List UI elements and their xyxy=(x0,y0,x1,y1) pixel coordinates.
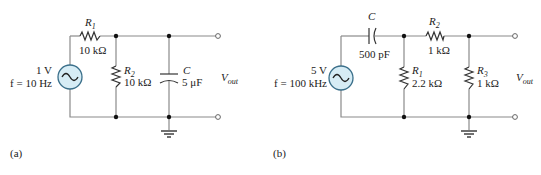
node-dot xyxy=(402,115,406,119)
source-frequency: f = 100 kHz xyxy=(274,77,327,89)
resistor-r2-icon xyxy=(426,32,444,40)
resistor-r3-icon xyxy=(465,67,473,89)
source-amplitude: 5 V xyxy=(311,64,327,76)
r1-value: 2.2 kΩ xyxy=(412,77,442,89)
c-label: C xyxy=(183,64,191,76)
ground-icon xyxy=(161,131,177,137)
output-terminal[interactable] xyxy=(216,34,221,39)
c-label: C xyxy=(368,10,376,22)
circuit-a: R1 10 kΩ R2 10 kΩ C 5 μF 1 V f = 10 Hz V… xyxy=(10,16,239,160)
vout-label: Vout xyxy=(221,71,239,86)
r3-value: 1 kΩ xyxy=(477,77,499,89)
node-dot xyxy=(167,34,171,38)
r1-value: 10 kΩ xyxy=(79,44,106,56)
circuit-diagram: R1 10 kΩ R2 10 kΩ C 5 μF 1 V f = 10 Hz V… xyxy=(0,0,541,175)
ground-icon xyxy=(461,131,477,137)
source-frequency: f = 10 Hz xyxy=(10,77,52,89)
r1-label: R1 xyxy=(84,16,96,31)
node-dot xyxy=(114,34,118,38)
c-value: 500 pF xyxy=(359,48,390,60)
resistor-r1-icon xyxy=(80,32,100,40)
node-dot xyxy=(402,34,406,38)
resistor-r1-icon xyxy=(400,67,408,89)
node-dot xyxy=(114,115,118,119)
caption-a: (a) xyxy=(10,147,23,160)
node-dot xyxy=(167,115,171,119)
caption-b: (b) xyxy=(273,147,286,160)
circuit-b: C 500 pF R2 1 kΩ R1 2.2 kΩ R3 1 kΩ 5 V f… xyxy=(273,10,534,160)
node-dot xyxy=(467,34,471,38)
output-terminal[interactable] xyxy=(513,34,518,39)
capacitor-c-icon xyxy=(369,28,376,44)
ac-source-icon xyxy=(58,65,82,89)
r2-value: 1 kΩ xyxy=(428,44,450,56)
output-terminal[interactable] xyxy=(513,115,518,120)
source-amplitude: 1 V xyxy=(36,64,52,76)
r2-value: 10 kΩ xyxy=(124,76,151,88)
c-value: 5 μF xyxy=(182,76,202,88)
resistor-r2-icon xyxy=(112,66,120,87)
r2-label: R2 xyxy=(428,15,440,30)
vout-label: Vout xyxy=(516,71,534,86)
node-dot xyxy=(467,115,471,119)
ac-source-icon xyxy=(329,66,353,90)
output-terminal[interactable] xyxy=(216,115,221,120)
